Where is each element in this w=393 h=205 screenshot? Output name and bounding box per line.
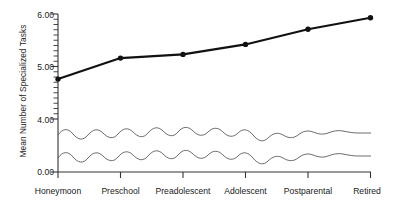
data-point-preadolescent [180, 52, 185, 57]
axis-break-wave-lower [58, 150, 371, 163]
data-point-adolescent [243, 42, 248, 47]
data-point-postparental [305, 27, 310, 32]
data-point-retired [368, 15, 373, 20]
data-point-honeymoon [55, 76, 60, 81]
axis-break-wave-upper [58, 127, 371, 140]
chart-figure: Mean Number of Specialized Tasks 6.00 5.… [0, 0, 393, 205]
x-tick-label-retired: Retired [341, 186, 393, 196]
y-minor-ticks-upper [54, 19, 59, 61]
data-point-preschool [118, 55, 123, 60]
plot-area [0, 0, 393, 205]
x-major-ticks [58, 172, 371, 178]
x-tick-label-postparental: Postparental [266, 186, 350, 196]
data-line-series-1 [58, 18, 371, 79]
